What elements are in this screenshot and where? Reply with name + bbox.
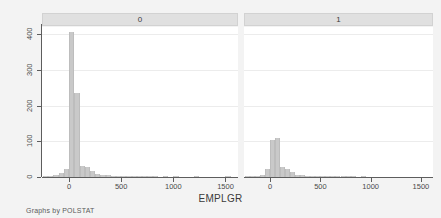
x-axis-tick-label: 1500 <box>404 183 438 191</box>
plot-area-1 <box>244 27 433 177</box>
x-axis-tick-label: 1500 <box>208 183 242 191</box>
y-axis-tick <box>37 70 41 71</box>
x-axis-tick-label: 1000 <box>354 183 388 191</box>
plot-area-0 <box>42 27 238 177</box>
x-axis-line <box>244 177 433 178</box>
panel-header-label-1: 1 <box>245 14 432 25</box>
gridline <box>244 106 433 107</box>
y-axis-tick <box>37 177 41 178</box>
histogram-bar <box>74 93 79 177</box>
y-axis-tick-label: 200 <box>26 92 34 118</box>
figure-root: 0 1 010020030040005001000150005001000150… <box>0 0 441 218</box>
panel-header-label-0: 0 <box>43 14 237 25</box>
figure-note: Graphs by POLSTAT <box>26 207 95 214</box>
x-axis-title: EMPLGR <box>0 193 441 204</box>
y-axis-tick <box>37 141 41 142</box>
y-axis-line <box>41 24 42 177</box>
y-axis-tick-label: 300 <box>26 57 34 83</box>
x-axis-tick-label: 0 <box>52 183 86 191</box>
gridline <box>244 34 433 35</box>
y-axis-tick-label: 400 <box>26 21 34 47</box>
x-axis-line <box>42 177 238 178</box>
panel-header-1: 1 <box>244 13 433 26</box>
gridline <box>244 70 433 71</box>
panel-plot-1 <box>244 27 433 177</box>
panel-header-0: 0 <box>42 13 238 26</box>
y-axis-tick-label: 0 <box>26 164 34 190</box>
x-axis-tick-label: 500 <box>303 183 337 191</box>
y-axis-tick-label: 100 <box>26 128 34 154</box>
y-axis-tick <box>37 34 41 35</box>
y-axis-tick <box>37 106 41 107</box>
x-axis-tick-label: 0 <box>253 183 287 191</box>
x-axis-tick-label: 1000 <box>156 183 190 191</box>
x-axis-tick-label: 500 <box>104 183 138 191</box>
panel-plot-0 <box>42 27 238 177</box>
